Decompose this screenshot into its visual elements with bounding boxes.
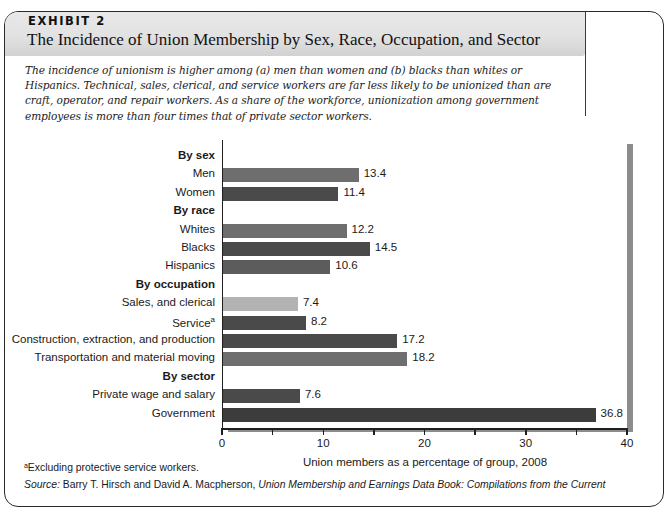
bar-row: Whites12.2 [0,222,671,240]
bar-category-label: Women [176,186,215,198]
bar-value-label: 36.8 [601,407,623,419]
source-authors: Barry T. Hirsch and David A. Macpherson, [60,479,258,490]
bar-group-label: By occupation [136,278,215,290]
x-axis-tick-label: 30 [519,437,532,449]
x-axis-tick-label: 0 [219,437,225,449]
exhibit-title: The Incidence of Union Membership by Sex… [27,30,540,50]
bar-value-label: 17.2 [402,333,424,345]
bar-category-label: Men [193,167,215,179]
footnote-marker: a [211,315,215,324]
x-axis-tick [221,428,223,435]
bar-value-label: 11.4 [343,186,365,198]
exhibit-number-label: EXHIBIT 2 [28,14,106,28]
bar [223,242,370,256]
x-axis-title: Union members as a percentage of group, … [222,456,628,468]
source-publication-title: Union Membership and Earnings Data Book:… [258,479,605,490]
bar-category-label: Whites [180,223,215,235]
bar-group-header-row: By occupation [0,277,671,295]
x-axis-tick [474,428,476,435]
bar-row: Government36.8 [0,406,671,424]
bar-value-label: 12.2 [352,223,374,235]
bar-row: Men13.4 [0,166,671,184]
x-axis-tick [626,428,628,435]
bar-group-label: By sex [178,149,215,161]
bar-value-label: 7.4 [303,296,319,308]
exhibit-intro-paragraph: The incidence of unionism is higher amon… [25,63,571,124]
x-axis-tick [272,428,274,435]
bar-row: Sales, and clerical7.4 [0,295,671,313]
x-axis-tick [525,428,527,435]
bar [223,168,359,182]
bar-group-header-row: By race [0,203,671,221]
source-citation: Source: Barry T. Hirsch and David A. Mac… [24,479,605,490]
bar-group-label: By race [173,204,215,216]
bar-category-label: Private wage and salary [92,388,215,400]
bar [223,187,338,201]
x-axis-tick [424,428,426,435]
x-axis-tick-label: 20 [418,437,431,449]
bar-group-header-row: By sector [0,369,671,387]
bar [223,352,407,366]
source-lead: Source: [24,479,60,490]
bar-category-label: Transportation and material moving [35,351,215,363]
bar-category-label: Sales, and clerical [122,296,215,308]
bar-value-label: 18.2 [412,351,434,363]
bar-row: Women11.4 [0,185,671,203]
bar-value-label: 7.6 [305,388,321,400]
x-axis-tick-label: 10 [317,437,330,449]
bar [223,389,300,403]
bar [223,297,298,311]
bar-chart: 010203040 By sexMen13.4Women11.4By raceW… [0,140,671,445]
bar-value-label: 14.5 [375,241,397,253]
bar-row: Hispanics10.6 [0,258,671,276]
bar-group-header-row: By sex [0,148,671,166]
bar-category-label: Blacks [181,241,215,253]
bar [223,224,347,238]
bar-value-label: 8.2 [311,315,327,327]
bar-category-label: Servicea [172,315,215,329]
bar [223,260,330,274]
header-divider-rule [585,12,586,116]
x-axis-tick [323,428,325,435]
bar-row: Servicea8.2 [0,314,671,332]
bar-row: Transportation and material moving18.2 [0,350,671,368]
bar-category-label: Hispanics [165,259,215,271]
bar-value-label: 10.6 [335,259,357,271]
bar-category-label: Government [152,407,215,419]
bar-row: Construction, extraction, and production… [0,332,671,350]
bar-category-label: Construction, extraction, and production [12,333,215,345]
bar-value-label: 13.4 [364,167,386,179]
bar [223,408,596,422]
bar-row: Blacks14.5 [0,240,671,258]
bar-group-label: By sector [163,370,215,382]
x-axis-tick-label: 40 [621,437,634,449]
x-axis-tick [373,428,375,435]
bar-row: Private wage and salary7.6 [0,387,671,405]
bar [223,316,306,330]
x-axis-tick [576,428,578,435]
bar [223,334,397,348]
footnote-excluding-protective: ᵃExcluding protective service workers. [24,462,199,473]
